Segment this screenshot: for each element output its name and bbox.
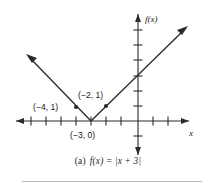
x-axis-left-arrowhead [16,118,24,124]
x-axis-label: x [188,128,193,138]
x-axis-right-arrowhead [181,118,189,124]
figure-panel: f(x) x (−4, 1) (−2, 1) (−3, 0) (a)f(x) =… [0,0,216,187]
figure-caption: (a)f(x) = |x + 3| [0,156,216,166]
point-label-neg4-1: (−4, 1) [33,102,58,112]
y-axis-label: f(x) [145,14,158,24]
curve-left-arrowhead [26,54,37,63]
y-axis-top-arrowhead [135,14,141,22]
point-marker-neg2-1 [104,104,108,108]
curve-right-arrowhead [177,26,188,35]
point-label-neg3-0: (−3, 0) [70,130,95,140]
y-axis [134,14,143,155]
point-marker-neg4-1 [74,105,78,109]
caption-equation: f(x) = |x + 3| [90,156,141,166]
y-axis-bottom-arrowhead [135,147,141,155]
bottom-divider [22,181,202,182]
caption-tag: (a) [75,156,86,166]
x-axis [16,117,189,126]
point-label-neg2-1: (−2, 1) [78,90,103,100]
